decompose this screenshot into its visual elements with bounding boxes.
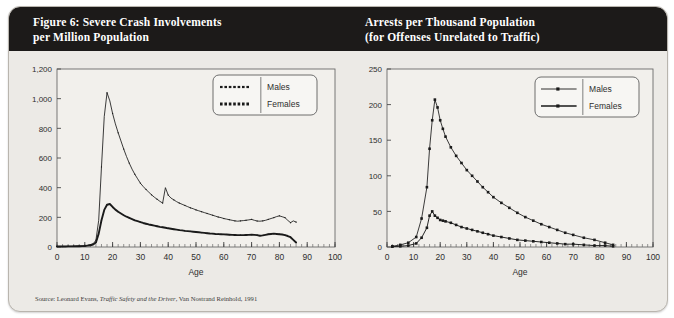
x-axis-tick-label: 20 [435,252,445,262]
y-axis-tick-label: 200 [39,214,53,223]
source-title: Traffic Safety and the Driver [100,295,176,302]
legend-label-females: Females [267,99,300,109]
y-axis-tick-label: 1,200 [32,65,53,74]
legend-label-males: Males [589,84,612,94]
x-axis-tick-label: 80 [275,252,285,262]
y-axis-tick-label: 1,000 [32,95,53,104]
chart-legend: MalesFemales [213,75,317,115]
x-axis-tick-label: 40 [163,252,173,262]
legend-label-females: Females [589,101,622,111]
x-axis-tick-label: 90 [302,252,312,262]
figure-panel: Figure 6: Severe Crash Involvements per … [8,6,668,312]
severe-crash-chart: 02004006008001,0001,20001020304050607080… [9,51,345,291]
x-axis-tick-label: 30 [136,252,146,262]
x-axis-tick-label: 10 [409,252,419,262]
figure-container: Figure 6: Severe Crash Involvements per … [0,0,674,318]
right-title-line-2: (for Offenses Unrelated to Traffic) [365,30,540,45]
y-axis-tick-label: 100 [369,172,383,181]
y-axis-tick-label: 0 [378,243,383,252]
chart-legend: MalesFemales [535,77,639,117]
x-axis-tick-label: 0 [385,252,390,262]
x-axis-label: Age [512,267,527,277]
left-title-line-1: Figure 6: Severe Crash Involvements [33,15,222,30]
x-axis-tick-label: 0 [55,252,60,262]
arrests-chart: 0501001502002500102030405060708090100Age… [345,51,667,291]
x-axis-tick-label: 50 [515,252,525,262]
source-prefix: Source: Leonard Evans, [35,295,100,302]
y-axis-tick-label: 200 [369,101,383,110]
x-axis-label: Age [188,267,203,277]
y-axis-tick-label: 0 [48,243,53,252]
x-axis-tick-label: 60 [219,252,229,262]
y-axis-tick-label: 600 [39,154,53,163]
x-axis-tick-label: 80 [595,252,605,262]
left-chart-title: Figure 6: Severe Crash Involvements per … [33,15,222,44]
right-title-line-1: Arrests per Thousand Population [365,15,540,30]
x-axis-tick-label: 30 [462,252,472,262]
right-chart-title: Arrests per Thousand Population (for Off… [365,15,540,44]
x-axis-tick-label: 40 [489,252,499,262]
x-axis-tick-label: 10 [80,252,90,262]
x-axis-tick-label: 70 [568,252,578,262]
legend-label-males: Males [267,82,290,92]
y-axis-tick-label: 800 [39,125,53,134]
x-axis-tick-label: 50 [191,252,201,262]
y-axis-tick-label: 250 [369,65,383,74]
source-citation: Source: Leonard Evans, Traffic Safety an… [35,295,257,302]
x-axis-tick-label: 20 [108,252,118,262]
x-axis-tick-label: 70 [247,252,257,262]
x-axis-tick-label: 100 [328,252,342,262]
x-axis-tick-label: 90 [622,252,632,262]
source-suffix: , Van Nostrand Reinhold, 1991 [176,295,258,302]
y-axis-tick-label: 150 [369,136,383,145]
left-title-line-2: per Million Population [33,30,222,45]
x-axis-tick-label: 100 [646,252,660,262]
y-axis-tick-label: 50 [373,208,382,217]
x-axis-tick-label: 60 [542,252,552,262]
y-axis-tick-label: 400 [39,184,53,193]
